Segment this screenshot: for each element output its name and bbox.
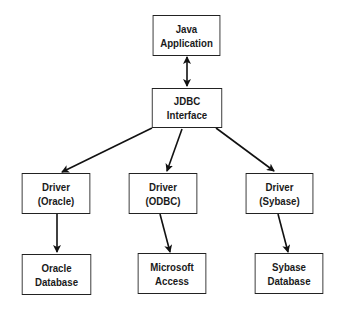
node-label: Driver [149, 180, 177, 194]
node-label: Database [35, 275, 78, 289]
node-java-application: Java Application [153, 15, 221, 56]
node-label: Oracle [41, 261, 71, 275]
node-driver-sybase: Driver (Sybase) [246, 173, 314, 214]
node-driver-oracle: Driver (Oracle) [22, 173, 91, 214]
node-label: Microsoft [150, 260, 194, 274]
node-label: Sybase [272, 260, 306, 274]
node-label: Java [176, 22, 198, 36]
node-label: Access [155, 274, 189, 288]
edge-jdbc-oracle [62, 128, 152, 172]
node-label: Application [160, 36, 213, 50]
node-label: (ODBC) [146, 194, 181, 208]
node-driver-odbc: Driver (ODBC) [129, 173, 198, 214]
node-sybase-database: Sybase Database [255, 253, 324, 294]
node-label: (Oracle) [38, 194, 75, 208]
node-label: JDBC Interface [153, 94, 222, 122]
node-jdbc-interface: JDBC Interface [152, 88, 222, 128]
edge-jdbc-sybase [216, 128, 274, 171]
node-microsoft-access: Microsoft Access [138, 253, 207, 294]
node-label: (Sybase) [259, 194, 299, 208]
node-label: Driver [42, 180, 70, 194]
edge-sybase-db [278, 214, 288, 252]
node-label: Driver [266, 180, 294, 194]
node-label: Database [267, 274, 310, 288]
edge-jdbc-odbc [167, 129, 182, 171]
edge-odbc-access [160, 214, 170, 252]
node-oracle-database: Oracle Database [22, 254, 92, 295]
